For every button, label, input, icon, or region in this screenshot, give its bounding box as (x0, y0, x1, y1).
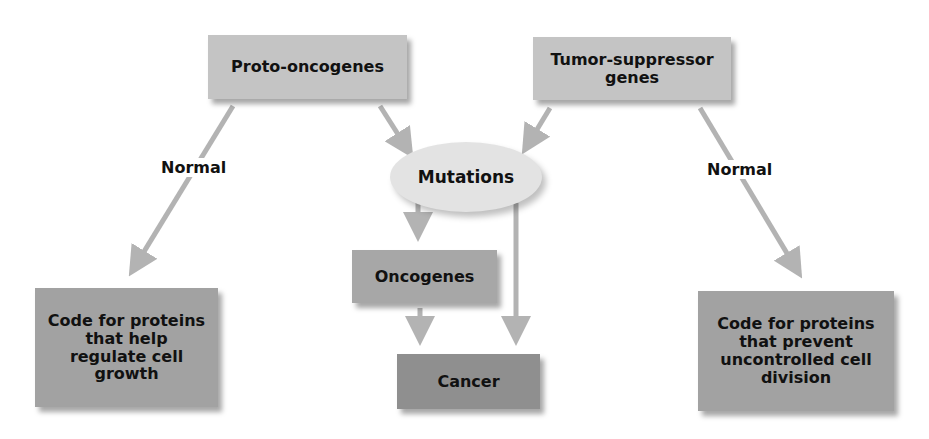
node-tumor-suppressor: Tumor-suppressor genes (533, 37, 731, 100)
node-left-outcome-label: Code for proteins that help regulate cel… (45, 312, 208, 384)
node-cancer-label: Cancer (437, 373, 499, 391)
node-cancer: Cancer (397, 354, 540, 409)
arrow-tumor-to-right-outcome (700, 108, 797, 270)
node-oncogenes-label: Oncogenes (375, 268, 475, 286)
node-oncogenes: Oncogenes (352, 250, 497, 303)
arrow-proto-to-mutations (380, 106, 408, 150)
node-proto-oncogenes-label: Proto-oncogenes (231, 58, 384, 76)
node-mutations-label: Mutations (418, 167, 514, 187)
node-right-outcome-label: Code for proteins that prevent uncontrol… (712, 315, 880, 387)
node-mutations: Mutations (390, 142, 542, 212)
edge-label-right-normal: Normal (704, 160, 775, 179)
node-tumor-suppressor-label: Tumor-suppressor genes (541, 51, 723, 87)
arrow-proto-to-left-outcome (134, 106, 233, 268)
node-proto-oncogenes: Proto-oncogenes (208, 35, 407, 99)
node-right-outcome: Code for proteins that prevent uncontrol… (698, 291, 894, 411)
edge-label-left-normal: Normal (158, 158, 229, 177)
arrow-tumor-to-mutations (527, 108, 550, 146)
node-left-outcome: Code for proteins that help regulate cel… (35, 288, 218, 407)
